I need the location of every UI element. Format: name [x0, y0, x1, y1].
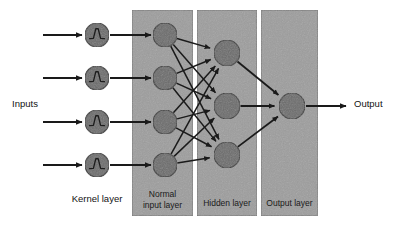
output-node-1[interactable] — [279, 93, 305, 119]
kernel-node-1[interactable] — [85, 23, 109, 47]
panel-label-normal-input-layer-line2: input layer — [143, 200, 182, 210]
kernel-node-3[interactable] — [85, 110, 109, 134]
kernel-layer-label: Kernel layer — [72, 193, 123, 204]
kernel-node-2[interactable] — [85, 66, 109, 90]
hidden-node-1[interactable] — [214, 40, 240, 66]
kernel-node-4[interactable] — [85, 153, 109, 177]
input-node-3[interactable] — [153, 110, 177, 134]
input-node-1[interactable] — [153, 23, 177, 47]
neural-network-diagram: Normalinput layerHidden layerOutput laye… — [0, 0, 402, 228]
panel-label-hidden-layer: Hidden layer — [203, 198, 251, 208]
diagram-canvas: Normalinput layerHidden layerOutput laye… — [0, 0, 402, 228]
output-label: Output — [354, 98, 383, 109]
panel-label-normal-input-layer: Normal — [149, 189, 177, 199]
input-node-4[interactable] — [153, 153, 177, 177]
hidden-node-3[interactable] — [214, 142, 240, 168]
panel-label-output-layer: Output layer — [266, 198, 312, 208]
inputs-label: Inputs — [12, 98, 38, 109]
input-node-2[interactable] — [153, 66, 177, 90]
hidden-node-2[interactable] — [214, 93, 240, 119]
